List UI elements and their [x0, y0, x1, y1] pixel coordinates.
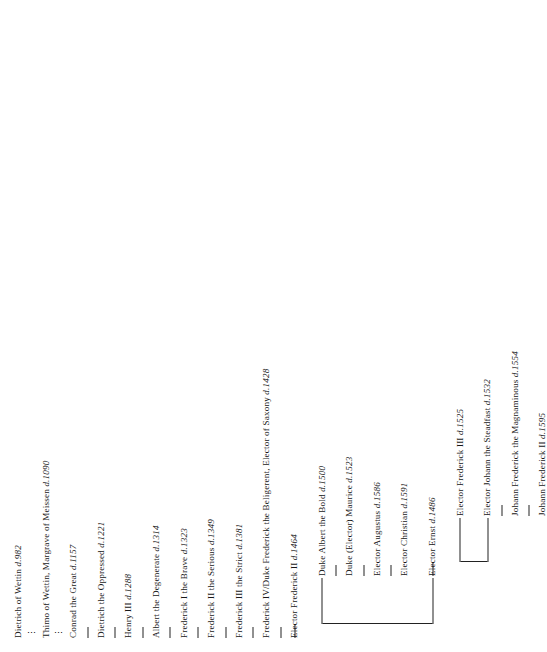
death-marker: d.1090 — [40, 461, 50, 487]
bracket-bar-e1 — [460, 561, 488, 562]
edge-n7-n8 — [197, 627, 198, 638]
edge-a2-a3 — [363, 565, 364, 576]
death-marker: d.1381 — [233, 524, 243, 550]
bracket-bar-n11 — [322, 623, 432, 624]
tree-node-n8: Frederick II the Serious d.1349 — [207, 519, 216, 638]
tree-node-n1: Dietrich of Wettin d.982 — [13, 545, 22, 638]
death-marker: d.1486 — [426, 497, 436, 523]
bracket-arm-e1-e2 — [459, 518, 460, 562]
death-marker: d.1221 — [95, 522, 105, 548]
edge-ellipsis-n1-n2: ⋮ — [27, 627, 36, 637]
edge-n4-n5 — [114, 627, 115, 638]
tree-node-a1: Duke Albert the Bold d.1500 — [317, 466, 326, 576]
bracket-arm-n11-e1 — [432, 578, 433, 624]
bracket-arm-n11-a1 — [321, 578, 322, 624]
tree-node-n3: Conrad the Great d.1157 — [69, 545, 78, 638]
tree-node-n10: Frederick IV/Duke Frederick the Beligere… — [262, 369, 271, 638]
tree-node-n11: Elector Frederick II d.1464 — [289, 534, 298, 638]
death-marker: d.1595 — [537, 413, 547, 439]
death-marker: d.1323 — [178, 528, 188, 554]
edge-a1-a2 — [335, 565, 336, 576]
death-marker: d.1591 — [399, 482, 409, 508]
tree-node-a4: Elector Christian d.1591 — [400, 482, 409, 576]
death-marker: d.1500 — [316, 466, 326, 492]
edge-e4-e5 — [528, 505, 529, 516]
tree-node-n2: Thimo of Wettin, Margrave of Meissen d.1… — [41, 461, 50, 639]
edge-a3-a4 — [390, 565, 391, 576]
bracket-stem-n11 — [294, 624, 295, 638]
tree-node-a2: Duke (Elector) Maurice d.1523 — [345, 457, 354, 576]
tree-node-e3: Elector Johann the Steadfast d.1532 — [483, 379, 492, 516]
death-marker: d.1464 — [288, 534, 298, 560]
death-marker: d.1428 — [261, 369, 271, 395]
edge-e3-e4 — [501, 505, 502, 516]
death-marker: d.1288 — [123, 574, 133, 600]
tree-node-n6: Albert the Degenerate d.1314 — [151, 525, 160, 638]
tree-node-n4: Dietrich the Oppressed d.1221 — [96, 522, 105, 638]
death-marker: d.1349 — [206, 519, 216, 545]
tree-node-n5: Henry III d.1288 — [124, 574, 133, 638]
death-marker: d.1554 — [509, 351, 519, 377]
tree-node-e4: Johann Frederick the Magnaminous d.1554 — [510, 351, 519, 516]
edge-n3-n4 — [87, 627, 88, 638]
death-marker: d.1523 — [344, 457, 354, 483]
edge-ellipsis-n2-n3: ⋮ — [55, 627, 64, 637]
death-marker: d.1314 — [150, 525, 160, 551]
edge-n9-n10 — [252, 627, 253, 638]
bracket-stem-e1 — [432, 562, 433, 576]
edge-n10-n11 — [280, 627, 281, 638]
death-marker: d.1586 — [371, 482, 381, 508]
tree-node-a3: Elector Augustus d.1586 — [372, 482, 381, 576]
tree-node-n9: Frederick III the Strict d.1381 — [234, 524, 243, 639]
death-marker: d.1532 — [482, 379, 492, 405]
edge-n8-n9 — [225, 627, 226, 638]
death-marker: d.1525 — [454, 409, 464, 435]
tree-node-e5: Johann Frederick II d.1595 — [538, 413, 547, 516]
tree-node-n7: Frederick I the Brave d.1323 — [179, 528, 188, 638]
death-marker: d.1157 — [68, 545, 78, 570]
edge-n5-n6 — [142, 627, 143, 638]
tree-node-e2: Elector Frederick III d.1525 — [455, 409, 464, 516]
edge-n6-n7 — [169, 627, 170, 638]
bracket-arm-e1-e3 — [487, 518, 488, 562]
death-marker: d.982 — [12, 545, 22, 566]
